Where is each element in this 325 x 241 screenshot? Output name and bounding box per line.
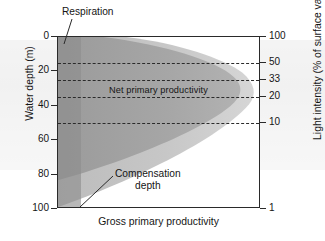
tick-right-33 [260, 79, 266, 80]
compensation-depth-annotation-label: Compensation depth [115, 168, 181, 191]
tick-left-40 [51, 105, 57, 106]
tick-right-10 [260, 122, 266, 123]
tick-left-0 [51, 36, 57, 37]
ticklabel-left-100: 100 [32, 202, 49, 213]
ticklabel-right-20: 20 [269, 90, 280, 101]
ticklabel-right-1: 1 [269, 202, 275, 213]
y-axis-title-right: Light intensity (% of surface value) [312, 0, 323, 156]
ticklabel-left-60: 60 [38, 133, 49, 144]
y-axis-title-left: Water depth (m) [24, 14, 35, 154]
tick-right-50 [260, 62, 266, 63]
tick-left-20 [51, 70, 57, 71]
dash-line-50 [58, 63, 259, 64]
ticklabel-left-40: 40 [38, 99, 49, 110]
tick-left-80 [51, 174, 57, 175]
ticklabel-left-0: 0 [43, 30, 49, 41]
ticklabel-right-10: 10 [269, 116, 280, 127]
dash-line-33 [58, 80, 259, 81]
ticklabel-right-33: 33 [269, 73, 280, 84]
tick-right-20 [260, 96, 266, 97]
dash-line-20 [58, 97, 259, 98]
ticklabel-left-80: 80 [38, 168, 49, 179]
tick-right-1 [260, 208, 266, 209]
x-axis-title: Gross primary productivity [57, 216, 260, 227]
compensation-depth-line2: depth [115, 180, 181, 192]
ticklabel-right-50: 50 [269, 56, 280, 67]
tick-right-100 [260, 36, 266, 37]
ticklabel-right-100: 100 [269, 30, 286, 41]
tick-left-60 [51, 139, 57, 140]
tick-left-100 [51, 208, 57, 209]
ticklabel-left-20: 20 [38, 64, 49, 75]
respiration-annotation-label: Respiration [62, 6, 114, 17]
net-primary-productivity-label: Net primary productivity [58, 85, 259, 95]
compensation-depth-line1: Compensation [115, 168, 181, 180]
dash-line-10 [58, 123, 259, 124]
